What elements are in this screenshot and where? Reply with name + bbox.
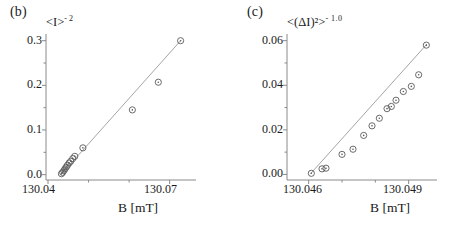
data-point-center <box>325 167 327 169</box>
data-point-center <box>132 109 134 111</box>
panel-b-x-axis-title: B [mT] <box>118 200 158 216</box>
data-point-center <box>411 86 413 88</box>
data-point-center <box>180 40 182 42</box>
panel-c-plot-area: 0.000.020.040.06130.046130.049 <box>225 0 450 233</box>
x-tick-label: 130.07 <box>0 182 225 197</box>
panel-c: (c) <(ΔI)²>- 1.0 0.000.020.040.06130.046… <box>225 0 450 233</box>
data-point-center <box>352 148 354 150</box>
panel-b: (b) <I>- 2 0.00.10.20.3130.04130.07 B [m… <box>0 0 225 233</box>
panel-b-plot-area: 0.00.10.20.3130.04130.07 <box>0 0 225 233</box>
data-point-center <box>391 106 393 108</box>
figure-root: (b) <I>- 2 0.00.10.20.3130.04130.07 B [m… <box>0 0 450 233</box>
data-point-center <box>157 81 159 83</box>
data-point-center <box>74 156 76 158</box>
data-point-center <box>82 147 84 149</box>
data-point-center <box>418 74 420 76</box>
y-tick-label: 0.2 <box>0 77 42 92</box>
data-point-center <box>379 117 381 119</box>
y-tick-label: 0.00 <box>225 166 283 181</box>
panel-c-x-axis-title: B [mT] <box>370 200 410 216</box>
y-tick-label: 0.3 <box>0 33 42 48</box>
y-tick-label: 0.1 <box>0 122 42 137</box>
fit-line <box>61 41 181 175</box>
fit-line <box>310 44 427 174</box>
data-point-center <box>363 135 365 137</box>
data-point-center <box>386 108 388 110</box>
data-point-center <box>395 99 397 101</box>
y-tick-label: 0.04 <box>225 77 283 92</box>
data-point-center <box>341 154 343 156</box>
y-tick-label: 0.02 <box>225 122 283 137</box>
y-tick-label: 0.06 <box>225 33 283 48</box>
data-point-center <box>371 125 373 127</box>
data-point-center <box>403 91 405 93</box>
data-point-center <box>311 173 313 175</box>
x-tick-label: 130.049 <box>225 182 450 197</box>
y-tick-label: 0.0 <box>0 167 42 182</box>
data-point-center <box>426 44 428 46</box>
